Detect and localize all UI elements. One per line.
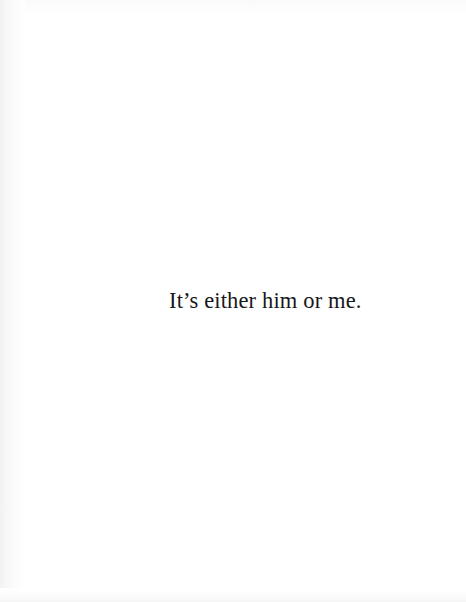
body-text-line: It’s either him or me. [169, 288, 362, 314]
page-text-block: It’s either him or me. [0, 0, 466, 602]
scanned-page: It’s either him or me. [0, 0, 466, 602]
